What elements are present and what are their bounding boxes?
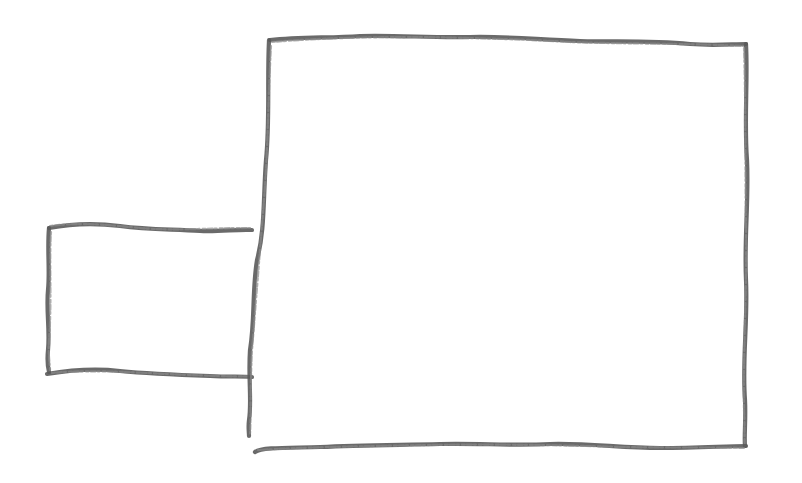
sketch-canvas xyxy=(0,0,802,483)
small-rectangle xyxy=(47,224,252,377)
large-rectangle xyxy=(249,36,748,452)
